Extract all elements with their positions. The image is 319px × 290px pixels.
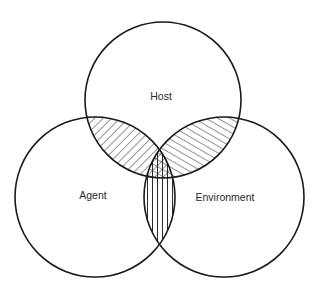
host-label: Host — [150, 90, 172, 102]
environment-label: Environment — [196, 191, 255, 203]
overlap-host-environment — [0, 0, 319, 290]
overlap-agent-environment — [0, 0, 319, 290]
venn-diagram: Host Agent Environment — [0, 0, 319, 290]
overlap-host-agent — [0, 0, 319, 290]
agent-label: Agent — [79, 189, 107, 201]
